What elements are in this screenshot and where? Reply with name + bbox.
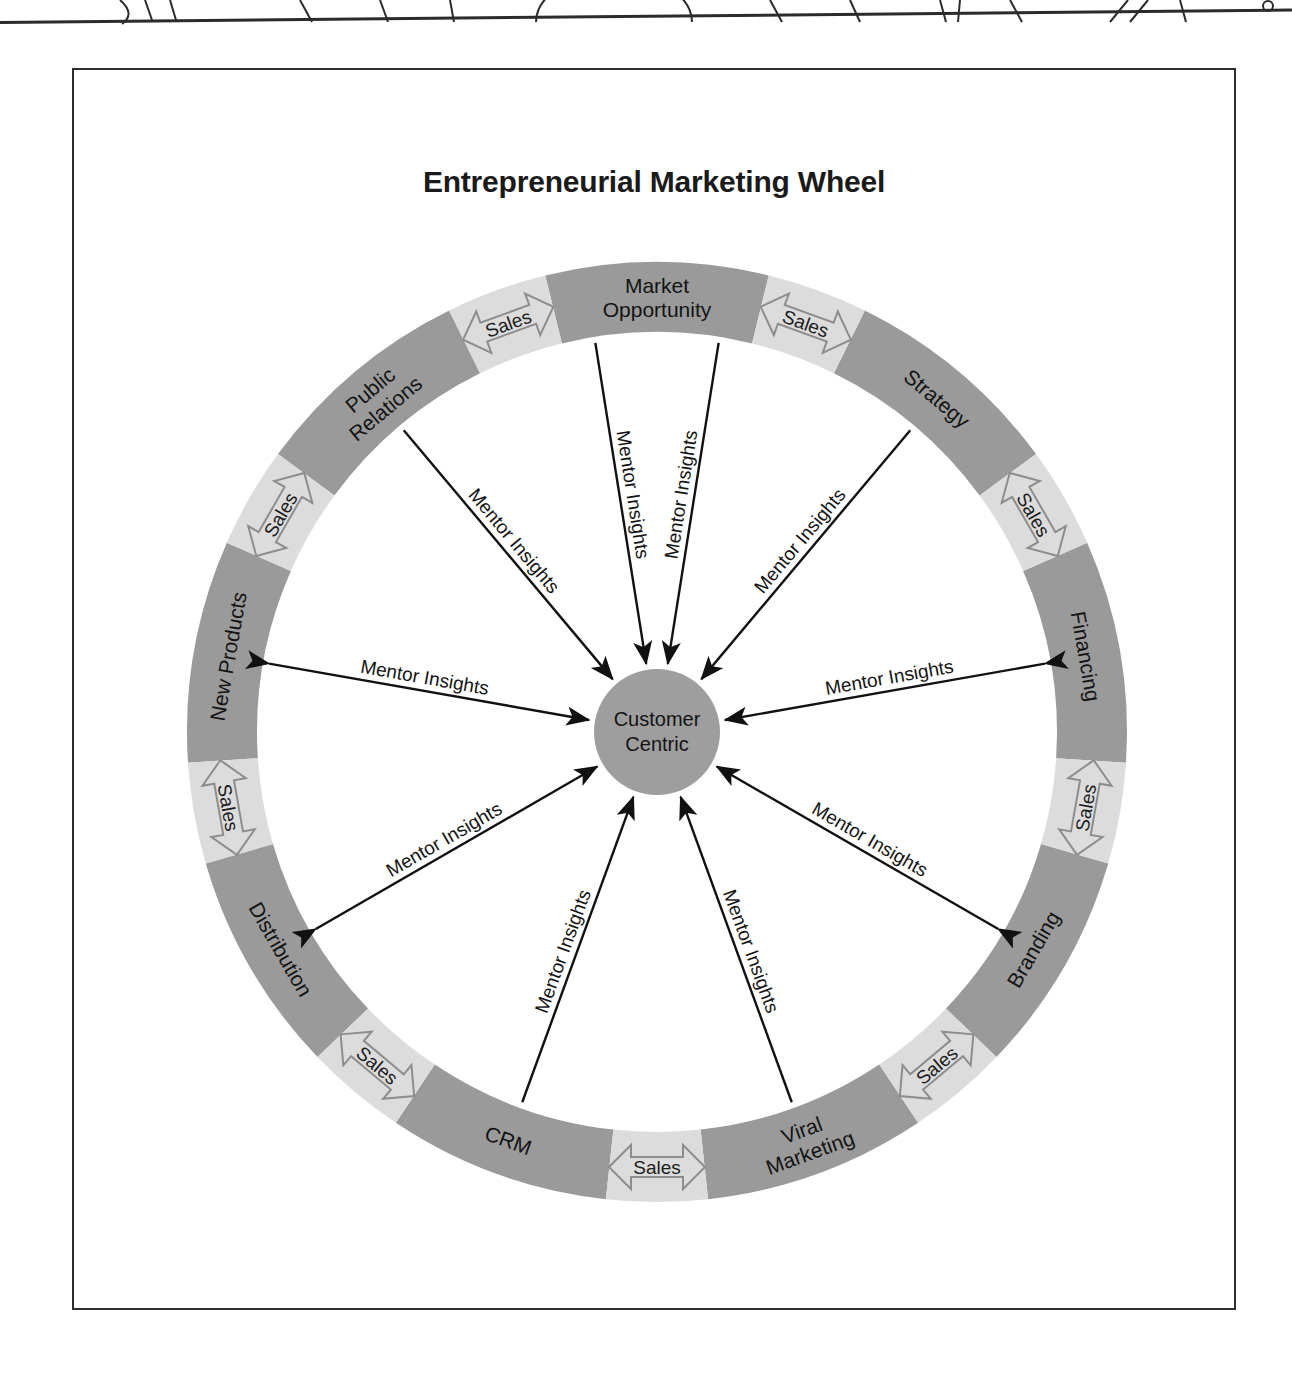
mentor-insights-label: Mentor Insights [531, 887, 595, 1016]
wheel-svg: Customer Centric MarketOpportunityStrate… [74, 70, 1238, 1312]
spoke-arrow-crm [522, 797, 633, 1102]
spoke-label-new-products: Mentor Insights [359, 656, 491, 699]
spoke-arrow-viral-marketing [681, 797, 792, 1102]
mentor-insights-label: Mentor Insights [382, 798, 505, 881]
spoke-label-financing: Mentor Insights [823, 656, 955, 699]
spoke-label-distribution: Mentor Insights [382, 798, 505, 881]
mentor-insights-label: Mentor Insights [464, 484, 564, 597]
spoke-arrow-distribution [316, 767, 597, 930]
spoke-label-viral-marketing: Mentor Insights [719, 887, 783, 1016]
page-root: Entrepreneurial Marketing Wheel Customer… [0, 0, 1292, 1374]
spoke-label-strategy: Mentor Insights [750, 484, 850, 597]
page-frame: Entrepreneurial Marketing Wheel Customer… [72, 68, 1236, 1310]
sales-connector-label: Sales [633, 1157, 681, 1178]
mentor-insights-label: Mentor Insights [823, 656, 955, 699]
segment-label-line2: Opportunity [603, 298, 712, 321]
spoke-label-crm: Mentor Insights [531, 887, 595, 1016]
mentor-insights-label: Mentor Insights [809, 798, 932, 881]
segment-label-line1: Market [625, 274, 689, 297]
marketing-wheel-diagram: Customer Centric MarketOpportunityStrate… [74, 70, 1238, 1312]
decorative-bleed-band [0, 0, 1292, 30]
spoke-label-branding: Mentor Insights [809, 798, 932, 881]
mentor-insights-label: Mentor Insights [750, 484, 850, 597]
spoke-label-public-relations: Mentor Insights [464, 484, 564, 597]
spoke-arrow-strategy [701, 430, 910, 679]
mentor-insights-label: Mentor Insights [359, 656, 491, 699]
hub-label-line2: Centric [625, 733, 688, 755]
mentor-insights-label: Mentor Insights [719, 887, 783, 1016]
spoke-arrow-public-relations [404, 430, 613, 679]
hub-label-line1: Customer [614, 708, 701, 730]
spoke-arrow-branding [717, 767, 998, 930]
hub-circle [594, 669, 720, 795]
